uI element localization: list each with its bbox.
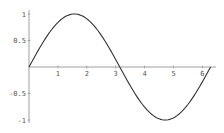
- x-tick-label: 6: [200, 70, 204, 78]
- x-tick-label: 4: [142, 70, 146, 78]
- axes: [29, 10, 216, 123]
- x-tick-label: 1: [56, 70, 60, 78]
- x-tick-label: 3: [114, 70, 118, 78]
- y-tick-label: -1: [18, 117, 26, 125]
- x-tick-label: 2: [85, 70, 89, 78]
- y-tick-label: -0.5: [9, 90, 26, 98]
- sine-plot: 123456 10.5-0.5-1: [0, 0, 224, 133]
- x-tick-label: 5: [171, 70, 175, 78]
- y-tick-label: 0.5: [13, 37, 26, 45]
- y-ticks: 10.5-0.5-1: [9, 11, 30, 125]
- y-tick-label: 1: [22, 11, 26, 19]
